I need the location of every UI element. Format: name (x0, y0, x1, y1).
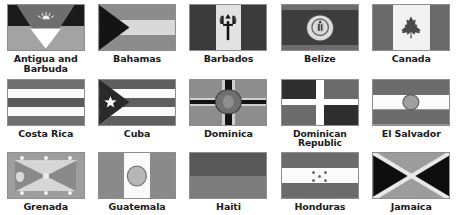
flag-cell-grenada[interactable]: Grenada (0, 148, 91, 215)
flag-cell-dominica[interactable]: Dominica (183, 75, 274, 149)
flag-image-wrapper (281, 4, 359, 51)
flag-label: Bahamas (113, 54, 161, 64)
star-icon (104, 95, 117, 109)
flag-dominica-icon (189, 79, 267, 126)
flag-el-salvador-icon (372, 79, 450, 126)
sisserou-parrot-emblem-icon (215, 89, 241, 114)
flag-cell-antigua-and-barbuda[interactable]: Antigua and Barbuda (0, 0, 91, 75)
coat-of-arms-icon (403, 94, 420, 110)
flag-cell-canada[interactable]: Canada (366, 0, 457, 75)
coat-of-arms-icon (306, 14, 334, 41)
flag-cell-bahamas[interactable]: Bahamas (91, 0, 182, 75)
flag-label: Barbados (204, 54, 254, 64)
flag-label: Belize (304, 54, 336, 64)
flag-label: Dominican Republic (274, 129, 365, 149)
flag-guatemala-icon (98, 152, 176, 199)
flag-canada-icon (372, 4, 450, 51)
flag-image-wrapper (7, 79, 85, 126)
flag-label: Cuba (124, 129, 151, 139)
flag-cell-el-salvador[interactable]: El Salvador (366, 75, 457, 149)
trident-icon (219, 14, 239, 41)
flag-image-wrapper (372, 152, 450, 199)
rising-sun-icon (34, 12, 57, 23)
flag-image-wrapper (98, 79, 176, 126)
flag-image-wrapper (7, 152, 85, 199)
flag-label: Grenada (23, 202, 68, 212)
flag-label: Haiti (216, 202, 241, 212)
flag-cell-barbados[interactable]: Barbados (183, 0, 274, 75)
flag-image-wrapper (7, 4, 85, 51)
flag-cell-guatemala[interactable]: Guatemala (91, 148, 182, 215)
flag-dominican-republic-icon (281, 79, 359, 126)
maple-leaf-icon (400, 11, 423, 43)
flag-image-wrapper (98, 152, 176, 199)
flag-haiti-icon (189, 152, 267, 199)
flag-cell-cuba[interactable]: Cuba (91, 75, 182, 149)
flag-cell-haiti[interactable]: Haiti (183, 148, 274, 215)
flag-label: Guatemala (109, 202, 166, 212)
flag-image-wrapper (189, 4, 267, 51)
flag-image-wrapper (281, 152, 359, 199)
flag-grenada-icon (7, 152, 85, 199)
flag-image-wrapper (189, 152, 267, 199)
flag-cell-jamaica[interactable]: Jamaica (366, 148, 457, 215)
flag-label: El Salvador (382, 129, 441, 139)
flag-grid: Antigua and Barbuda Bahamas (0, 0, 457, 215)
flag-cell-dominican-republic[interactable]: Dominican Republic (274, 75, 365, 149)
flag-barbados-icon (189, 4, 267, 51)
flag-label: Costa Rica (18, 129, 73, 139)
flag-cell-belize[interactable]: Belize (274, 0, 365, 75)
flag-label: Canada (392, 54, 431, 64)
flag-label: Jamaica (391, 202, 432, 212)
flag-cell-costa-rica[interactable]: Costa Rica (0, 75, 91, 149)
flag-costa-rica-icon (7, 79, 85, 126)
nutmeg-icon (16, 172, 24, 182)
flag-image-wrapper (281, 79, 359, 126)
flag-antigua-and-barbuda-icon (7, 4, 85, 51)
flag-jamaica-icon (372, 152, 450, 199)
flag-belize-icon (281, 4, 359, 51)
flag-image-wrapper (372, 79, 450, 126)
flag-cell-honduras[interactable]: Honduras (274, 148, 365, 215)
flag-honduras-icon (281, 152, 359, 199)
flag-cuba-icon (98, 79, 176, 126)
flag-image-wrapper (372, 4, 450, 51)
flag-label: Honduras (295, 202, 346, 212)
flag-image-wrapper (98, 4, 176, 51)
flag-image-wrapper (189, 79, 267, 126)
flag-label: Antigua and Barbuda (0, 54, 91, 75)
flag-label: Dominica (204, 129, 253, 139)
flag-bahamas-icon (98, 4, 176, 51)
coat-of-arms-icon (127, 165, 147, 186)
